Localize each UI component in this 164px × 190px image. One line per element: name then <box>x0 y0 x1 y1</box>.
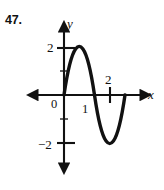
graph-plot <box>0 0 164 190</box>
x-tick-label-2: 2 <box>105 73 112 86</box>
x-axis-label: x <box>148 88 154 101</box>
figure-container: 47. y x 2 −2 0 1 2 <box>0 0 164 190</box>
origin-label: 0 <box>51 98 57 111</box>
x-tick-label-1: 1 <box>82 103 88 116</box>
y-axis-label: y <box>67 17 73 30</box>
y-tick-label-2: 2 <box>47 41 54 54</box>
y-tick-label-negative-2: −2 <box>38 138 52 151</box>
